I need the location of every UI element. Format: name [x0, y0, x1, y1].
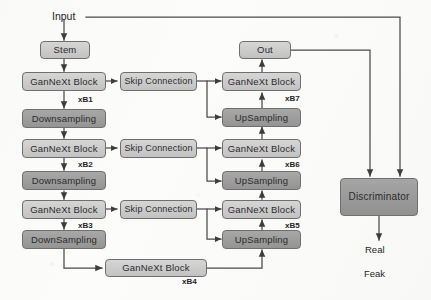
gannext-block-b6[interactable]: GanNeXt Block	[222, 139, 301, 158]
repeat-label-b1: xB1	[78, 96, 93, 104]
skip-connection-3-label: Skip Connection	[124, 205, 192, 214]
upsampling-block-2[interactable]: UpSampling	[222, 171, 301, 190]
gannext-block-b2[interactable]: GanNeXt Block	[22, 139, 106, 158]
repeat-label-b2: xB2	[78, 161, 93, 169]
out-block[interactable]: Out	[239, 41, 291, 59]
upsampling-block-2-label: UpSampling	[235, 176, 289, 186]
repeat-label-b4: xB4	[182, 278, 197, 286]
gannext-block-b1-label: GanNeXt Block	[30, 77, 97, 87]
downsampling-block-1-label: Downsampling	[32, 114, 97, 124]
gannext-block-b7-label: GanNeXt Block	[228, 77, 295, 87]
gannext-block-b7[interactable]: GanNeXt Block	[222, 72, 301, 91]
gannext-block-b3-label: GanNeXt Block	[30, 205, 97, 215]
stem-block-label: Stem	[54, 45, 77, 55]
downsampling-block-2-label: Downsampling	[32, 176, 97, 186]
upsampling-block-3[interactable]: UpSampling	[222, 230, 301, 249]
input-label: Input	[52, 11, 75, 22]
gannext-block-b6-label: GanNeXt Block	[228, 144, 295, 154]
discriminator-block-label: Discriminator	[349, 192, 410, 202]
downsampling-block-1[interactable]: Downsampling	[22, 109, 106, 128]
repeat-label-b5: xB5	[285, 222, 300, 230]
gannext-block-b1[interactable]: GanNeXt Block	[22, 72, 106, 91]
downsampling-block-3[interactable]: DownSampling	[22, 230, 106, 249]
fake-label: Feak	[364, 269, 385, 279]
gannext-block-b5-label: GanNeXt Block	[228, 205, 295, 215]
real-label: Real	[365, 245, 385, 255]
skip-connection-2-label: Skip Connection	[124, 144, 192, 153]
gannext-block-b4-label: GanNeXt Block	[122, 263, 189, 273]
gannext-block-b4[interactable]: GanNeXt Block	[105, 259, 207, 277]
gannext-block-b5[interactable]: GanNeXt Block	[222, 200, 301, 219]
upsampling-block-1[interactable]: UpSampling	[222, 108, 301, 127]
skip-connection-2[interactable]: Skip Connection	[120, 139, 197, 158]
discriminator-block[interactable]: Discriminator	[340, 178, 418, 216]
repeat-label-b3: xB3	[78, 222, 93, 230]
architecture-diagram-canvas: Input xB1 xB2 xB3 xB4 xB7 xB6 xB5 Real F…	[0, 0, 431, 300]
skip-connection-3[interactable]: Skip Connection	[120, 200, 197, 219]
out-block-label: Out	[257, 45, 273, 55]
repeat-label-b7: xB7	[285, 95, 300, 103]
gannext-block-b3[interactable]: GanNeXt Block	[22, 200, 106, 219]
upsampling-block-1-label: UpSampling	[235, 113, 289, 123]
stem-block[interactable]: Stem	[40, 41, 90, 59]
gannext-block-b2-label: GanNeXt Block	[30, 144, 97, 154]
downsampling-block-2[interactable]: Downsampling	[22, 171, 106, 190]
upsampling-block-3-label: UpSampling	[235, 235, 289, 245]
skip-connection-1-label: Skip Connection	[124, 77, 192, 86]
repeat-label-b6: xB6	[285, 161, 300, 169]
skip-connection-1[interactable]: Skip Connection	[120, 72, 197, 91]
downsampling-block-3-label: DownSampling	[31, 235, 97, 245]
